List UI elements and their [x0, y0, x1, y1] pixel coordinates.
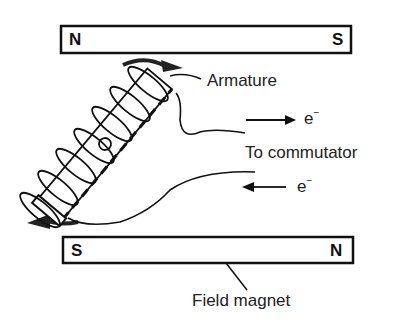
- wire-top: [176, 93, 245, 134]
- to-commutator-label: To commutator: [245, 144, 357, 161]
- top-magnet-north: N: [69, 31, 81, 48]
- armature-label: Armature: [207, 72, 277, 89]
- electron-in-arrow: [242, 182, 286, 192]
- top-field-magnet: [61, 26, 351, 53]
- electron-out-label: e−: [304, 110, 319, 127]
- field-magnet-label: Field magnet: [192, 292, 290, 309]
- top-magnet-south: S: [332, 31, 343, 48]
- armature-core: [32, 67, 173, 226]
- electron-in-label: e−: [297, 178, 312, 195]
- bottom-field-magnet: [63, 237, 353, 263]
- bottom-magnet-south: S: [71, 242, 82, 259]
- field-magnet-leader: [226, 263, 247, 290]
- electron-out-charge: −: [313, 107, 319, 118]
- armature-leader: [170, 75, 201, 79]
- motor-diagram: [0, 0, 414, 326]
- electron-out-arrow: [246, 115, 296, 125]
- bottom-magnet-north: N: [330, 242, 342, 259]
- electron-in-charge: −: [306, 175, 312, 186]
